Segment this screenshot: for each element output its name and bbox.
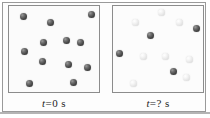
particle-box-left	[8, 5, 100, 93]
particle-light	[132, 19, 139, 26]
particle-light	[140, 53, 147, 60]
caption-right-unit: s	[165, 97, 170, 109]
particle-light	[176, 19, 183, 26]
caption-right: t=? s	[112, 97, 204, 109]
particle-dark	[21, 48, 28, 55]
particle-light	[186, 56, 193, 63]
panel-right: t=? s	[112, 5, 204, 115]
particle-box-right	[112, 5, 204, 93]
panel-left: t=0 s	[8, 5, 100, 115]
particle-light	[183, 74, 190, 81]
particle-dark	[20, 13, 27, 20]
particle-dark	[84, 64, 91, 71]
particle-dark	[77, 39, 84, 46]
particle-dark	[147, 32, 154, 39]
particle-dark	[193, 25, 200, 32]
caption-right-value: ?	[156, 97, 161, 109]
particle-dark	[116, 50, 123, 57]
caption-left: t=0 s	[8, 97, 100, 109]
particle-dark	[88, 11, 95, 18]
particle-dark	[40, 39, 47, 46]
particle-dark	[70, 79, 77, 86]
particle-dark	[39, 58, 46, 65]
particle-dark	[63, 37, 70, 44]
particle-dark	[65, 61, 72, 68]
particle-light	[130, 80, 137, 87]
caption-left-value: 0	[52, 97, 58, 109]
particle-dark	[47, 19, 54, 26]
particle-diagram-figure: t=0 s t=? s	[0, 0, 210, 118]
caption-left-unit: s	[61, 97, 66, 109]
particle-dark	[26, 80, 33, 87]
particle-light	[158, 9, 165, 16]
particle-dark	[170, 68, 177, 75]
particle-light	[162, 53, 169, 60]
